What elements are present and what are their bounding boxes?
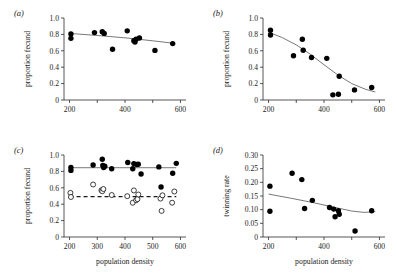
data-point-c-s1-16 bbox=[170, 200, 175, 205]
data-point-d-s0-0 bbox=[267, 183, 272, 188]
data-point-d-s0-3 bbox=[299, 177, 304, 182]
y-tick-label-a-2: 0.4 bbox=[50, 63, 60, 72]
data-point-a-s0-5 bbox=[110, 47, 115, 52]
x-tick-label-a-4: 600 bbox=[175, 105, 187, 114]
panel-letter-a: (a) bbox=[14, 8, 24, 18]
data-point-c-s1-12 bbox=[136, 192, 141, 197]
figure-container: (a)00.20.40.60.81.0200400600proportion f… bbox=[0, 0, 397, 274]
x-tick-label-a-2: 400 bbox=[119, 105, 131, 114]
data-point-a-s0-11 bbox=[152, 48, 157, 53]
y-tick-label-d-2: 0.10 bbox=[245, 205, 258, 214]
panel-letter-d: (d) bbox=[213, 145, 223, 155]
data-point-c-s1-2 bbox=[91, 182, 96, 187]
panel-letter-b: (b) bbox=[213, 8, 223, 18]
data-point-c-s0-13 bbox=[138, 171, 143, 176]
data-point-d-s0-4 bbox=[302, 206, 307, 211]
y-tick-label-b-1: 0.2 bbox=[249, 79, 259, 88]
y-axis-title-d: twinning rate bbox=[222, 175, 231, 217]
x-tick-label-d-2: 400 bbox=[318, 242, 330, 251]
panel-b: (b)00.20.40.60.81.0200400600proportion f… bbox=[199, 0, 397, 137]
data-point-c-s0-7 bbox=[109, 166, 114, 171]
data-point-d-s0-1 bbox=[267, 209, 272, 214]
y-tick-label-c-2: 0.4 bbox=[50, 200, 60, 209]
data-point-c-s0-2 bbox=[90, 162, 95, 167]
data-point-c-s1-9 bbox=[131, 188, 136, 193]
data-point-c-s0-1 bbox=[68, 168, 73, 173]
y-axis-title-b: proportion fecund bbox=[222, 31, 231, 87]
data-point-c-s1-5 bbox=[101, 187, 106, 192]
data-point-c-s1-15 bbox=[160, 193, 165, 198]
y-tick-label-a-3: 0.6 bbox=[50, 47, 60, 56]
y-tick-label-d-5: 0.25 bbox=[245, 164, 258, 173]
x-tick-label-d-4: 600 bbox=[374, 242, 386, 251]
y-tick-label-b-4: 0.8 bbox=[249, 30, 259, 39]
x-tick-label-c-0: 200 bbox=[64, 242, 76, 251]
y-tick-label-b-0: 0 bbox=[254, 96, 258, 105]
data-point-b-s0-2 bbox=[291, 53, 296, 58]
x-tick-label-c-4: 600 bbox=[175, 242, 187, 251]
x-tick-label-d-0: 200 bbox=[263, 242, 275, 251]
data-point-d-s0-11 bbox=[352, 228, 357, 233]
data-point-c-s0-6 bbox=[102, 164, 107, 169]
y-tick-label-a-0: 0 bbox=[55, 96, 59, 105]
data-point-d-s0-2 bbox=[289, 171, 294, 176]
data-point-c-s0-14 bbox=[156, 164, 161, 169]
data-point-b-s0-9 bbox=[337, 74, 342, 79]
data-point-b-s0-5 bbox=[309, 55, 314, 60]
data-point-b-s0-11 bbox=[369, 85, 374, 90]
data-point-b-s0-3 bbox=[300, 37, 305, 42]
data-point-b-s0-10 bbox=[352, 87, 357, 92]
y-tick-label-d-6: 0.30 bbox=[245, 151, 258, 160]
y-tick-label-b-5: 1.0 bbox=[249, 14, 259, 23]
data-point-a-s0-10 bbox=[137, 35, 142, 40]
data-point-c-s0-9 bbox=[130, 166, 135, 171]
data-point-c-s1-1 bbox=[68, 194, 73, 199]
data-point-c-s1-17 bbox=[172, 189, 177, 194]
data-point-b-s0-8 bbox=[336, 92, 341, 97]
data-point-c-s0-17 bbox=[174, 161, 179, 166]
data-point-a-s0-12 bbox=[170, 41, 175, 46]
x-axis-title-c: population density bbox=[96, 257, 154, 266]
data-point-c-s0-8 bbox=[125, 160, 130, 165]
data-point-a-s0-4 bbox=[102, 31, 107, 36]
x-tick-label-b-4: 600 bbox=[374, 105, 386, 114]
data-point-c-s0-12 bbox=[136, 161, 141, 166]
data-point-c-s0-16 bbox=[170, 171, 175, 176]
y-tick-label-b-2: 0.4 bbox=[249, 63, 259, 72]
y-tick-label-a-5: 1.0 bbox=[50, 14, 60, 23]
data-point-a-s0-6 bbox=[125, 28, 130, 33]
data-point-d-s0-12 bbox=[369, 208, 374, 213]
data-point-c-s1-6 bbox=[109, 193, 114, 198]
x-tick-label-c-3: 500 bbox=[147, 242, 159, 251]
x-tick-label-c-2: 400 bbox=[119, 242, 131, 251]
data-point-b-s0-4 bbox=[301, 48, 306, 53]
y-tick-label-a-1: 0.2 bbox=[50, 79, 60, 88]
panel-d: (d)00.050.100.150.200.250.30200400600twi… bbox=[199, 137, 397, 274]
data-point-c-s1-14 bbox=[159, 208, 164, 213]
data-point-b-s0-7 bbox=[330, 92, 335, 97]
y-tick-label-d-3: 0.15 bbox=[245, 192, 258, 201]
data-point-d-s0-5 bbox=[310, 198, 315, 203]
y-tick-label-d-0: 0 bbox=[254, 233, 258, 242]
fit-line-b-0 bbox=[269, 32, 376, 92]
data-point-b-s0-6 bbox=[324, 56, 329, 61]
data-point-b-s0-1 bbox=[268, 32, 273, 37]
y-tick-label-c-1: 0.2 bbox=[50, 216, 60, 225]
y-axis-title-c: proportion fecund bbox=[23, 168, 32, 224]
y-tick-label-d-1: 0.05 bbox=[245, 219, 258, 228]
data-point-c-s1-11 bbox=[135, 197, 140, 202]
data-point-a-s0-2 bbox=[92, 30, 97, 35]
data-point-d-s0-10 bbox=[337, 212, 342, 217]
panel-a: (a)00.20.40.60.81.0200400600proportion f… bbox=[0, 0, 198, 137]
data-point-a-s0-1 bbox=[68, 36, 73, 41]
y-tick-label-b-3: 0.6 bbox=[249, 47, 259, 56]
y-tick-label-a-4: 0.8 bbox=[50, 30, 60, 39]
y-tick-label-d-4: 0.20 bbox=[245, 178, 258, 187]
x-tick-label-a-0: 200 bbox=[64, 105, 76, 114]
x-tick-label-b-0: 200 bbox=[263, 105, 275, 114]
x-axis-title-d: population density bbox=[295, 257, 353, 266]
y-tick-label-c-4: 0.8 bbox=[50, 167, 60, 176]
x-tick-label-c-1: 300 bbox=[92, 242, 104, 251]
y-axis-title-a: proportion fecund bbox=[23, 31, 32, 87]
y-tick-label-c-3: 0.6 bbox=[50, 184, 60, 193]
